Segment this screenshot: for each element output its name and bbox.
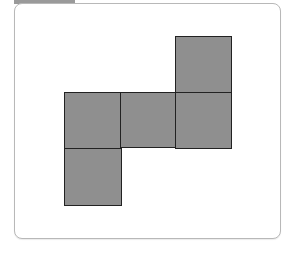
square-middle-center: [120, 92, 176, 148]
square-bottom-left: [64, 148, 122, 206]
square-middle-right: [175, 92, 232, 149]
square-middle-left: [64, 92, 121, 149]
square-top-right: [175, 36, 232, 93]
